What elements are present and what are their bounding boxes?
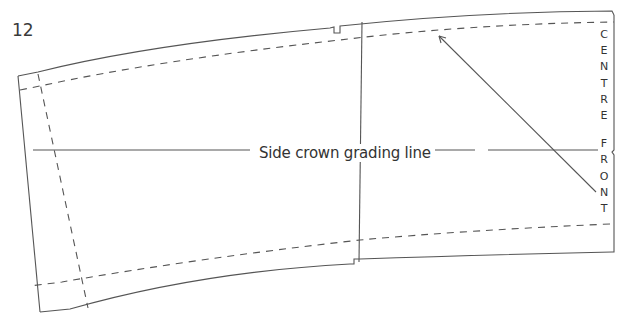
cf-letter: T [598,76,610,92]
grading-line-label: Side crown grading line [255,144,435,162]
cf-letter: T [598,201,610,217]
cf-letter: N [598,59,610,75]
cf-letter: O [598,169,610,185]
centre-front-label: C E N T R E F R O N T [598,27,610,217]
cf-letter: R [598,152,610,168]
cf-letter: E [598,43,610,59]
cf-letter: R [598,92,610,108]
cf-letter: C [598,27,610,43]
cf-letter: E [598,108,610,124]
side-crown-pattern-piece [0,0,632,326]
cf-letter: F [598,136,610,152]
cf-letter: N [598,185,610,201]
cf-gap [598,124,610,136]
pattern-diagram: 12 Side crown gr [0,0,632,326]
